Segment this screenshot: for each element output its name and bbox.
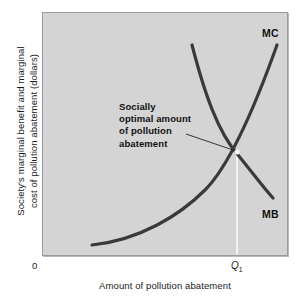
- q1-tick-label: Q1: [231, 260, 243, 273]
- annotation-socially-optimal: Socially optimal amount of pollution aba…: [119, 101, 197, 150]
- mb-curve-label: MB: [262, 208, 279, 220]
- origin-label: 0: [32, 260, 37, 271]
- x-axis-label: Amount of pollution abatement: [42, 280, 288, 291]
- annotation-line-2: optimal amount: [119, 113, 197, 125]
- mc-curve-label: MC: [262, 27, 279, 39]
- q1-tick-letter: Q: [231, 260, 239, 271]
- annotation-line-4: abatement: [119, 138, 197, 150]
- y-axis-label: Society's marginal benefit and marginal …: [14, 31, 40, 231]
- annotation-line-1: Socially: [119, 101, 197, 113]
- annotation-line-3: of pollution: [119, 125, 197, 137]
- q1-tick-subscript: 1: [239, 266, 243, 273]
- pollution-abatement-chart: Socially optimal amount of pollution aba…: [0, 0, 302, 297]
